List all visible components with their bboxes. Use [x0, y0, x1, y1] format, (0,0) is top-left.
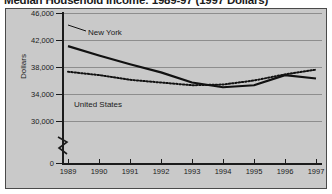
x-tick-label-1997: 1997 [296, 167, 332, 176]
x-tick-1996 [285, 159, 286, 164]
y-tick-34000 [56, 94, 63, 95]
x-tick-1990 [99, 159, 100, 164]
x-tick-1994 [223, 159, 224, 164]
chart-title: Median Household Income: 1989-97 (1997 D… [4, 0, 332, 8]
x-tick-1995 [254, 159, 255, 164]
gridline-46000 [63, 13, 322, 14]
y-tick-30000 [56, 121, 63, 122]
y-tick-42000 [56, 40, 63, 41]
series-label-united-states: United States [74, 100, 122, 109]
y-tick-38000 [56, 67, 63, 68]
x-tick-1992 [161, 159, 162, 164]
x-tick-1997 [316, 159, 317, 164]
gridline-30000 [63, 121, 322, 122]
y-tick-label-42000: 42,000 [10, 36, 54, 45]
y-tick-label-38000: 38,000 [10, 63, 54, 72]
gridline-34000 [63, 94, 322, 95]
chart-figure: Median Household Income: 1989-97 (1997 D… [0, 0, 332, 194]
gridline-38000 [63, 67, 322, 68]
y-axis-break-icon [56, 136, 70, 155]
y-tick-label-34000: 34,000 [10, 90, 54, 99]
series-label-new-york: New York [88, 28, 122, 37]
gridline-42000 [63, 40, 322, 41]
x-tick-1993 [192, 159, 193, 164]
y-tick-label-46000: 46,000 [10, 9, 54, 18]
y-tick-46000 [56, 13, 63, 14]
x-tick-1991 [130, 159, 131, 164]
x-tick-1989 [68, 159, 69, 164]
y-tick-label-30000: 30,000 [10, 117, 54, 126]
